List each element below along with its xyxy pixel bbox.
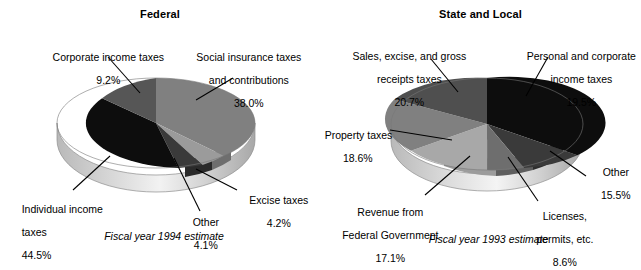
label-corporate-income-taxes: Corporate income taxes 9.2% — [30, 40, 175, 98]
label-sales-excise-gross-receipts: Sales, excise, and gross receipts taxes … — [326, 39, 481, 120]
federal-pie-chart-panel: Federal — [0, 0, 320, 259]
label-social-insurance-taxes: Social insurance taxes and contributions… — [178, 40, 308, 121]
federal-chart-caption: Fiscal year 1994 estimate — [4, 230, 324, 242]
state-chart-caption: Fiscal year 1993 estimate — [328, 233, 641, 245]
label-personal-corporate-income: Personal and corporate income taxes 19.5… — [510, 39, 641, 120]
state-local-pie-chart-panel: State and Local — [320, 0, 641, 259]
label-property-taxes: Property taxes 18.6% — [313, 118, 391, 176]
